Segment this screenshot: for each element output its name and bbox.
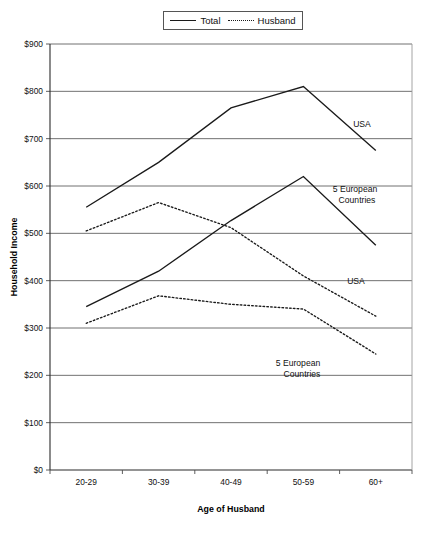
chart-annotation-label: USA: [347, 276, 365, 286]
x-tick-label: 40-49: [220, 477, 242, 487]
y-tick-label: $300: [24, 323, 43, 333]
y-tick-label: $800: [24, 86, 43, 96]
chart-plot-area: $0$100$200$300$400$500$600$700$800$900 2…: [0, 0, 427, 538]
y-tick-label: $600: [24, 181, 43, 191]
y-tick-label: $400: [24, 276, 43, 286]
y-tick-label: $100: [24, 418, 43, 428]
chart-series-lines: [86, 87, 376, 354]
chart-annotation-label: USA: [353, 119, 371, 129]
y-tick-label: $700: [24, 134, 43, 144]
chart-annotation-label: Countries: [284, 369, 321, 379]
x-tick-label: 50-59: [293, 477, 315, 487]
x-tick-label: 60+: [369, 477, 383, 487]
chart-annotations: USA5 EuropeanCountriesUSA5 EuropeanCount…: [276, 119, 378, 379]
x-axis-title: Age of Husband: [197, 504, 264, 514]
chart-tickmarks: [46, 44, 412, 474]
x-tick-label: 30-39: [148, 477, 170, 487]
y-tick-label: $0: [34, 465, 44, 475]
chart-container: Total Husband $0$100$200$300$400$500$600…: [0, 0, 427, 538]
y-axis-tick-labels: $0$100$200$300$400$500$600$700$800$900: [24, 39, 43, 475]
y-axis-title: Household Income: [9, 218, 19, 297]
chart-annotation-label: Countries: [339, 195, 376, 205]
x-axis-tick-labels: 20-2930-3940-4950-5960+: [75, 477, 383, 487]
chart-annotation-label: 5 European: [276, 358, 321, 368]
y-tick-label: $900: [24, 39, 43, 49]
y-tick-label: $500: [24, 228, 43, 238]
series-line-husband-europe: [86, 296, 376, 354]
y-tick-label: $200: [24, 370, 43, 380]
x-tick-label: 20-29: [75, 477, 97, 487]
series-line-husband-usa: [86, 203, 376, 317]
chart-annotation-label: 5 European: [333, 184, 378, 194]
series-line-total-europe: [86, 177, 376, 307]
